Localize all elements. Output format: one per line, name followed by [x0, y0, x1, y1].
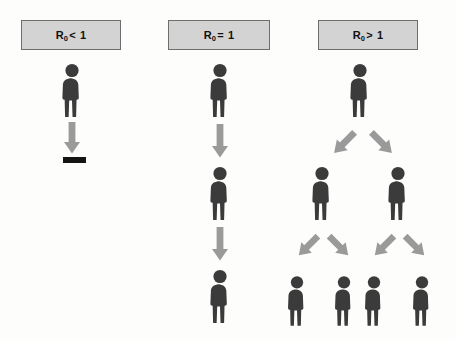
- person-icon: [345, 63, 375, 118]
- r0-operator-1: <: [68, 29, 77, 41]
- r0-operator-3: >: [365, 29, 374, 41]
- r0-symbol-1: R: [56, 29, 64, 41]
- arrow-diagonal-down-left-icon: [328, 127, 360, 159]
- extinction-bar-icon: [63, 157, 86, 163]
- panel-header-label-3: R0> 1: [353, 29, 384, 41]
- r0-subscript-3: 0: [361, 34, 365, 43]
- r0-value-3: 1: [377, 29, 383, 41]
- person-icon: [408, 275, 436, 327]
- person-icon: [205, 269, 235, 324]
- panel-header-r0-less-than-one: R0< 1: [21, 20, 121, 50]
- arrow-down-icon: [211, 227, 229, 261]
- r0-symbol-3: R: [353, 29, 361, 41]
- person-icon: [307, 166, 337, 221]
- person-icon: [205, 63, 235, 118]
- person-icon: [360, 275, 388, 327]
- arrow-diagonal-down-left-icon: [293, 231, 323, 261]
- person-icon: [205, 166, 235, 221]
- r0-operator-2: =: [216, 29, 225, 41]
- arrow-diagonal-down-left-icon: [369, 231, 399, 261]
- arrow-down-icon: [63, 122, 81, 154]
- arrow-diagonal-down-right-icon: [366, 127, 398, 159]
- panel-header-label-1: R0< 1: [56, 29, 87, 41]
- r0-value-1: 1: [80, 29, 86, 41]
- panel-header-label-2: R0= 1: [204, 29, 235, 41]
- person-icon: [330, 275, 358, 327]
- arrow-down-icon: [211, 124, 229, 158]
- arrow-diagonal-down-right-icon: [400, 231, 430, 261]
- r0-value-2: 1: [228, 29, 234, 41]
- person-icon: [283, 275, 311, 327]
- arrow-diagonal-down-right-icon: [324, 231, 354, 261]
- r0-subscript-2: 0: [212, 34, 216, 43]
- transmission-diagram: R0< 1 R0= 1 R0> 1: [0, 0, 456, 340]
- panel-header-r0-greater-than-one: R0> 1: [318, 20, 418, 50]
- person-icon: [57, 63, 87, 118]
- r0-symbol-2: R: [204, 29, 212, 41]
- panel-header-r0-equal-one: R0= 1: [168, 20, 270, 50]
- r0-subscript-1: 0: [64, 34, 68, 43]
- person-icon: [383, 166, 413, 221]
